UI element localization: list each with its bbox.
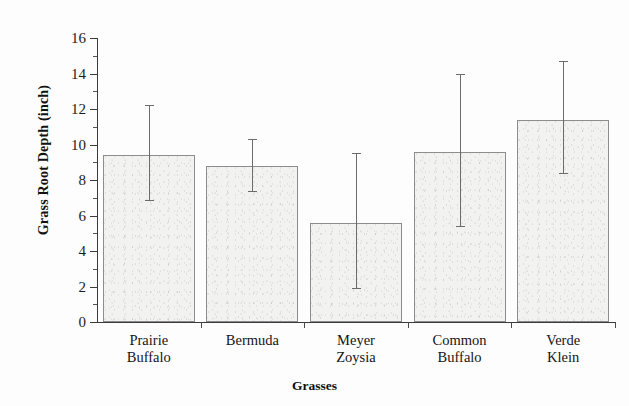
error-bar-stem [149,105,150,199]
x-category-label-line: Buffalo [97,349,201,366]
error-bar-cap [145,200,154,201]
y-tick-major [90,251,97,252]
error-bar-stem [356,153,357,288]
x-category-label-line: Common [408,332,512,349]
error-bar-stem [252,139,253,190]
y-axis-line [97,38,98,322]
error-bar-cap [559,173,568,174]
x-category-label: VerdeKlein [511,332,615,366]
x-tick [201,322,202,328]
x-category-label-line: Klein [511,349,615,366]
y-tick-minor [93,304,97,305]
x-category-label: MeyerZoysia [304,332,408,366]
x-category-label-line: Meyer [304,332,408,349]
x-category-label-line: Bermuda [201,332,305,349]
y-axis-title: Grass Root Depth (inch) [36,20,52,300]
y-tick-minor [93,127,97,128]
x-category-label-line: Zoysia [304,349,408,366]
x-tick [408,322,409,328]
y-tick-minor [93,269,97,270]
error-bar-cap [456,226,465,227]
error-bar-cap [352,288,361,289]
y-tick-major [90,322,97,323]
y-tick-label: 0 [79,314,87,331]
y-tick-label: 2 [79,278,87,295]
y-tick-major [90,109,97,110]
y-tick-minor [93,162,97,163]
error-bar-cap [559,61,568,62]
y-tick-major [90,180,97,181]
error-bar-cap [248,139,257,140]
y-tick-major [90,38,97,39]
x-category-label: Bermuda [201,332,305,349]
error-bar-stem [460,74,461,227]
error-bar-cap [248,191,257,192]
y-tick-label: 6 [79,207,87,224]
y-tick-minor [93,56,97,57]
y-tick-label: 14 [71,65,86,82]
x-tick [615,322,616,328]
y-tick-minor [93,91,97,92]
y-tick-minor [93,198,97,199]
y-tick-major [90,287,97,288]
x-axis-line [97,322,615,323]
y-tick-label: 16 [71,30,86,47]
error-bar-cap [352,153,361,154]
error-bar-cap [145,105,154,106]
plot-area: 0246810121416 [97,38,615,322]
y-tick-label: 4 [79,243,87,260]
x-category-label-line: Prairie [97,332,201,349]
y-tick-label: 12 [71,101,86,118]
y-tick-minor [93,233,97,234]
y-tick-label: 10 [71,136,86,153]
error-bar-cap [456,74,465,75]
y-tick-major [90,216,97,217]
x-axis-title: Grasses [0,378,629,394]
chart-figure: Grass Root Depth (inch) 0246810121416 Pr… [0,0,629,406]
y-tick-major [90,74,97,75]
y-tick-label: 8 [79,172,87,189]
x-category-label-line: Buffalo [408,349,512,366]
x-category-label: PrairieBuffalo [97,332,201,366]
y-tick-major [90,145,97,146]
error-bar-stem [563,61,564,173]
x-category-label-line: Verde [511,332,615,349]
x-tick [304,322,305,328]
x-category-label: CommonBuffalo [408,332,512,366]
x-tick [511,322,512,328]
